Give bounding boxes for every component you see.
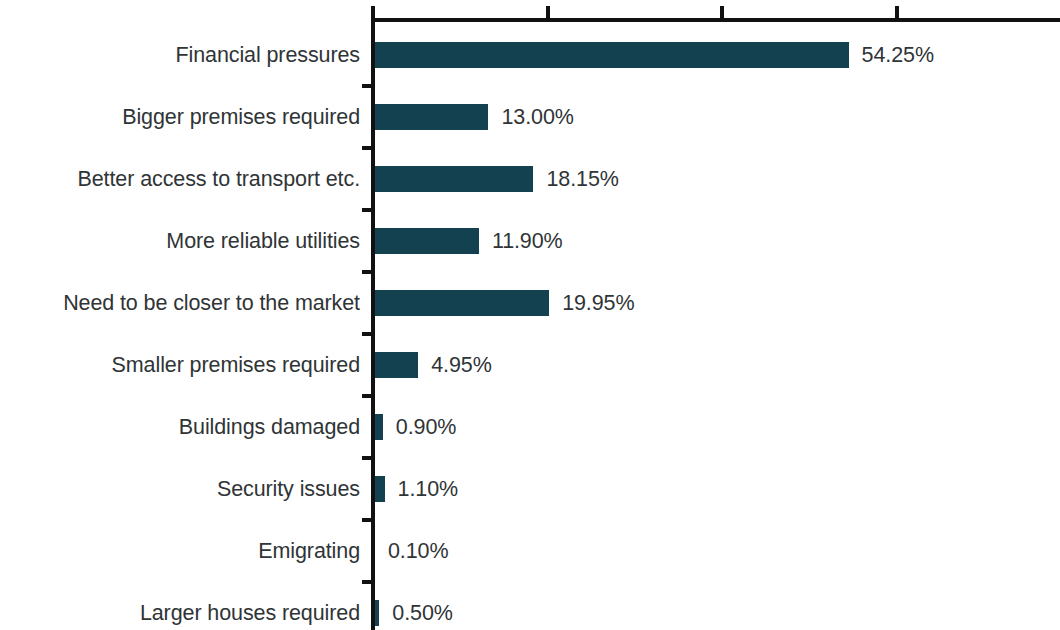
- bar-row: Buildings damaged0.90%: [0, 396, 1060, 458]
- bar: [375, 476, 385, 502]
- bar-row: More reliable utilities11.90%: [0, 210, 1060, 272]
- bar-row: Security issues1.10%: [0, 458, 1060, 520]
- bar-row: Financial pressures54.25%: [0, 24, 1060, 86]
- bar-row: Smaller premises required4.95%: [0, 334, 1060, 396]
- bar: [375, 104, 488, 130]
- bar-value-label: 19.95%: [562, 291, 634, 316]
- bar-row: Emigrating0.10%: [0, 520, 1060, 582]
- bar-value-label: 0.10%: [388, 539, 448, 564]
- bar-and-value: 54.25%: [375, 42, 934, 68]
- category-label: More reliable utilities: [166, 229, 360, 254]
- bar-row: Need to be closer to the market19.95%: [0, 272, 1060, 334]
- category-label: Smaller premises required: [112, 353, 360, 378]
- x-axis-tick: [895, 6, 899, 20]
- x-axis-tick: [546, 6, 550, 20]
- bar: [375, 42, 849, 68]
- bar-value-label: 54.25%: [862, 43, 934, 68]
- bar-and-value: 4.95%: [375, 352, 492, 378]
- bar-row: Better access to transport etc.18.15%: [0, 148, 1060, 210]
- bar-value-label: 4.95%: [431, 353, 491, 378]
- bar-value-label: 11.90%: [492, 229, 563, 254]
- category-label: Financial pressures: [175, 43, 360, 68]
- bar: [375, 352, 418, 378]
- bar: [375, 228, 479, 254]
- category-label: Better access to transport etc.: [78, 167, 361, 192]
- bar: [375, 600, 379, 626]
- bar-value-label: 13.00%: [501, 105, 573, 130]
- bar: [375, 290, 549, 316]
- bar-value-label: 18.15%: [546, 167, 618, 192]
- bar-value-label: 1.10%: [398, 477, 458, 502]
- category-label: Buildings damaged: [179, 415, 360, 440]
- x-axis-line: [371, 18, 1060, 22]
- bar-and-value: 1.10%: [375, 476, 458, 502]
- bar-and-value: 0.10%: [375, 538, 448, 564]
- bar-value-label: 0.90%: [396, 415, 456, 440]
- bar-and-value: 11.90%: [375, 228, 563, 254]
- bar-row: Bigger premises required13.00%: [0, 86, 1060, 148]
- category-label: Emigrating: [258, 539, 360, 564]
- bar-and-value: 0.90%: [375, 414, 456, 440]
- x-axis-tick: [720, 6, 724, 20]
- bar-value-label: 0.50%: [392, 601, 452, 626]
- x-axis-tick: [371, 6, 375, 20]
- bar-chart: Financial pressures54.25%Bigger premises…: [0, 0, 1060, 630]
- category-label: Larger houses required: [140, 601, 360, 626]
- bar: [375, 166, 533, 192]
- category-label: Security issues: [217, 477, 360, 502]
- category-label: Need to be closer to the market: [63, 291, 360, 316]
- bar: [375, 414, 383, 440]
- bar-and-value: 19.95%: [375, 290, 634, 316]
- bar-and-value: 0.50%: [375, 600, 453, 626]
- bar-and-value: 13.00%: [375, 104, 574, 130]
- bar-and-value: 18.15%: [375, 166, 619, 192]
- category-label: Bigger premises required: [122, 105, 360, 130]
- bar-row: Larger houses required0.50%: [0, 582, 1060, 630]
